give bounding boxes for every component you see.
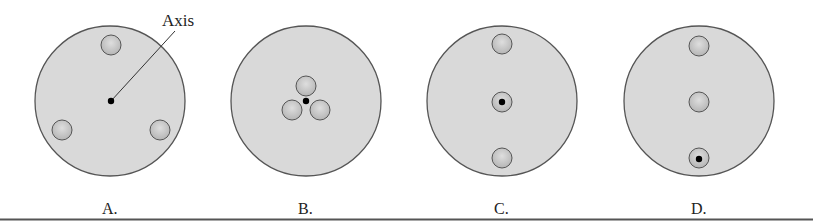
panel-label: C.: [494, 200, 509, 217]
axis-dot: [499, 99, 505, 105]
axis-dot: [303, 98, 309, 104]
panel-b: B.: [231, 26, 381, 217]
hole: [689, 36, 709, 56]
hole: [310, 100, 330, 120]
panel-label: B.: [298, 200, 313, 217]
panel-label: D.: [691, 200, 707, 217]
axis-dot: [696, 156, 702, 162]
axis-dot: [108, 98, 114, 104]
hole: [296, 76, 316, 96]
hole: [492, 148, 512, 168]
panel-label: A.: [102, 200, 118, 217]
panel-a: Axis A.: [35, 11, 194, 217]
hole: [282, 100, 302, 120]
panel-d: D.: [624, 26, 774, 217]
rotating-disks-diagram: Axis A. B. C. D.: [0, 0, 813, 221]
hole: [689, 92, 709, 112]
hole: [492, 34, 512, 54]
hole: [150, 120, 170, 140]
panel-c: C.: [427, 26, 577, 217]
hole: [101, 35, 121, 55]
hole: [52, 120, 72, 140]
axis-label: Axis: [162, 11, 194, 30]
